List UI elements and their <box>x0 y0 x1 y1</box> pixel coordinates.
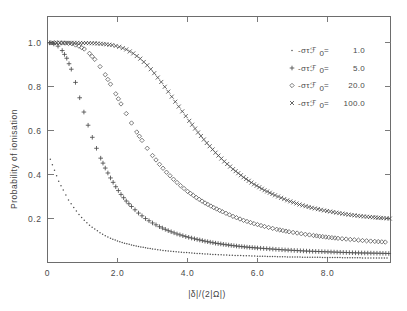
data-point-diamond <box>340 237 344 241</box>
data-point-dot <box>121 242 123 244</box>
data-point-x <box>135 54 139 58</box>
data-point-dot <box>142 247 144 249</box>
data-point-plus <box>136 211 141 216</box>
data-point-x <box>121 46 125 50</box>
data-point-plus <box>69 67 74 72</box>
data-point-dot <box>58 180 60 182</box>
data-point-plus <box>108 176 113 181</box>
data-point-plus <box>77 95 82 100</box>
data-point-diamond <box>352 238 356 242</box>
data-point-dot <box>262 256 264 258</box>
data-point-diamond <box>299 232 303 236</box>
legend-entry-2: -στℱ0=20.0 <box>290 81 365 93</box>
data-point-dot <box>105 235 107 237</box>
data-point-diamond <box>98 64 102 68</box>
data-point-dot <box>386 257 388 259</box>
data-point-dot <box>223 254 225 256</box>
y-axis-title: Probability of ionisation <box>9 109 19 209</box>
x-tick-label: 4.0 <box>181 268 195 278</box>
data-point-dot <box>297 256 299 258</box>
data-point-x <box>149 67 153 71</box>
data-point-dot <box>102 233 104 235</box>
data-point-dot <box>84 220 86 222</box>
data-point-dot <box>287 256 289 258</box>
data-point-x <box>163 85 167 89</box>
data-point-plus <box>101 161 106 166</box>
data-point-diamond <box>106 77 110 81</box>
data-point-x <box>173 100 177 104</box>
data-point-dot <box>248 255 250 257</box>
data-point-plus <box>169 229 174 234</box>
data-point-dot <box>272 256 274 258</box>
data-point-dot <box>207 253 209 255</box>
y-axis-ticks <box>48 43 391 219</box>
data-point-dot <box>131 244 133 246</box>
data-point-diamond <box>206 202 210 206</box>
data-point-dot <box>359 257 361 259</box>
data-point-diamond <box>103 73 107 77</box>
data-point-dot <box>352 257 354 259</box>
x-axis-title: |δ|/(2|Ω|) <box>188 289 226 299</box>
data-point-x <box>170 95 174 99</box>
data-point-diamond <box>124 111 128 115</box>
data-point-dot <box>52 164 54 166</box>
data-point-diamond <box>344 237 348 241</box>
data-point-dot <box>279 256 281 258</box>
data-point-dot <box>145 247 147 249</box>
data-point-plus <box>147 218 152 223</box>
data-point-dot <box>60 185 62 187</box>
data-point-dot <box>322 257 324 259</box>
data-point-dot <box>362 257 364 259</box>
data-point-plus <box>86 123 91 128</box>
data-point-dot <box>76 210 78 212</box>
data-point-diamond <box>129 121 133 125</box>
data-point-x <box>124 47 128 51</box>
data-point-dot <box>81 217 83 219</box>
data-point-dot <box>324 257 326 259</box>
plot-area-border <box>48 17 391 263</box>
data-point-dot <box>240 255 242 257</box>
data-point-diamond <box>182 186 186 190</box>
data-point-dot <box>89 224 91 226</box>
data-point-dot <box>294 256 296 258</box>
x-tick-label: 2.0 <box>111 268 125 278</box>
data-point-dot <box>307 256 309 258</box>
data-point-diamond <box>364 239 368 243</box>
data-point-plus <box>116 188 121 193</box>
data-point-dot <box>243 255 245 257</box>
data-point-plus <box>181 233 186 238</box>
data-point-dot <box>215 254 217 256</box>
data-point-dot <box>329 257 331 259</box>
data-point-dot <box>234 255 236 256</box>
data-point-dot <box>191 252 193 254</box>
data-point-diamond <box>116 97 120 101</box>
data-point-dot <box>186 252 188 254</box>
data-point-plus <box>60 48 65 53</box>
data-point-plus <box>113 184 118 189</box>
data-point-dot <box>202 253 204 255</box>
data-point-diamond <box>154 158 158 162</box>
data-point-dot <box>302 256 304 258</box>
data-point-x <box>159 80 163 84</box>
data-point-dot <box>357 257 359 259</box>
data-point-dot <box>73 207 75 209</box>
data-point-dot <box>140 246 142 248</box>
legend-equals: = <box>324 64 329 73</box>
data-point-x <box>128 49 132 53</box>
data-point-dot <box>354 257 356 259</box>
legend-value: 1.0 <box>353 46 365 55</box>
data-point-dot <box>157 249 159 251</box>
data-point-dot <box>378 257 380 259</box>
y-tick-label: 0.6 <box>28 126 42 136</box>
data-point-diamond <box>140 138 144 142</box>
data-point-diamond <box>307 233 311 237</box>
data-point-dot <box>309 256 311 258</box>
data-point-dot <box>246 255 248 257</box>
ionisation-probability-chart: 02.04.06.08.0 0.20.40.60.81.0 -στℱ0=1.0-… <box>0 0 407 311</box>
data-point-diamond <box>217 208 221 212</box>
data-point-diamond <box>161 166 165 170</box>
data-point-dot <box>204 253 206 255</box>
data-point-dot <box>349 257 351 259</box>
data-point-plus <box>178 233 183 238</box>
data-point-dot <box>332 257 334 259</box>
